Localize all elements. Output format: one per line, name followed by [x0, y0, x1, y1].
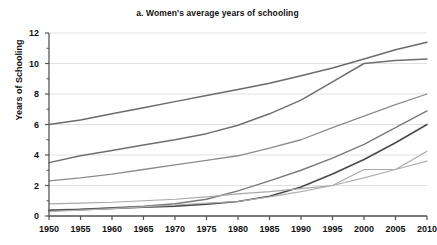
series-line-series-3 [49, 94, 427, 181]
x-tick-label: 1985 [259, 224, 279, 234]
series-line-series-5 [49, 125, 427, 211]
series-line-series-7 [49, 161, 427, 211]
x-tick-label: 2000 [354, 224, 374, 234]
x-tick-label: 1995 [322, 224, 342, 234]
plot-area [49, 33, 427, 216]
x-tick-label: 2005 [385, 224, 405, 234]
x-tick-label: 1965 [133, 224, 153, 234]
x-tick-label: 1980 [228, 224, 248, 234]
x-tick-label: 1960 [102, 224, 122, 234]
x-tick-label: 1970 [165, 224, 185, 234]
x-tick-label: 1990 [291, 224, 311, 234]
x-tick-label: 1950 [39, 224, 59, 234]
x-tick-label: 1955 [70, 224, 90, 234]
line-chart-svg [49, 33, 427, 216]
x-tick-label: 1975 [196, 224, 216, 234]
series-line-series-2 [49, 59, 427, 163]
x-tick-label: 2010 [417, 224, 437, 234]
series-line-series-1 [49, 42, 427, 124]
series-line-series-6 [49, 151, 427, 204]
